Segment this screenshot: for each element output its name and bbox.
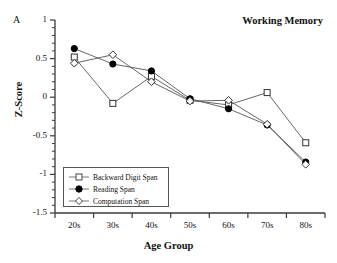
x-tick-label: 80s xyxy=(289,220,323,230)
data-point xyxy=(109,51,117,59)
legend-item-computation-span[interactable]: Computation Span xyxy=(68,195,149,207)
data-point xyxy=(110,100,116,106)
legend-label: Backward Digit Span xyxy=(93,173,158,182)
series-line-computation-span xyxy=(74,55,305,165)
legend-label: Computation Span xyxy=(93,197,149,206)
y-tick-label: -0.5 xyxy=(21,130,47,140)
data-point xyxy=(148,68,154,74)
x-tick-label: 20s xyxy=(57,220,91,230)
plot-area xyxy=(0,0,337,263)
chart-title: Working Memory xyxy=(242,15,323,26)
chart-figure: A Working Memory Z-Score Age Group 10.50… xyxy=(0,0,337,263)
y-tick-label: -1.5 xyxy=(21,207,47,217)
panel-label: A xyxy=(13,14,20,25)
x-tick-label: 30s xyxy=(96,220,130,230)
open-square-marker-icon xyxy=(68,172,90,182)
y-tick-label: 0.5 xyxy=(21,53,47,63)
x-tick-label: 40s xyxy=(134,220,168,230)
legend-item-reading-span[interactable]: Reading Span xyxy=(68,183,135,195)
x-tick-label: 60s xyxy=(212,220,246,230)
data-point xyxy=(225,106,231,112)
data-point xyxy=(303,140,309,146)
y-tick-label: -1 xyxy=(21,168,47,178)
data-point xyxy=(110,61,116,67)
y-tick-label: 1 xyxy=(21,14,47,24)
legend: Backward Digit Span Reading Span Computa… xyxy=(63,167,169,207)
filled-circle-marker-icon xyxy=(68,184,90,194)
open-diamond-marker-icon xyxy=(68,196,90,206)
x-tick-label: 50s xyxy=(173,220,207,230)
legend-item-backward-digit-span[interactable]: Backward Digit Span xyxy=(68,171,158,183)
x-tick-label: 70s xyxy=(250,220,284,230)
legend-label: Reading Span xyxy=(93,185,135,194)
data-point xyxy=(264,90,270,96)
y-tick-label: 0 xyxy=(21,91,47,101)
x-axis-label: Age Group xyxy=(0,240,337,251)
data-point xyxy=(71,45,77,51)
